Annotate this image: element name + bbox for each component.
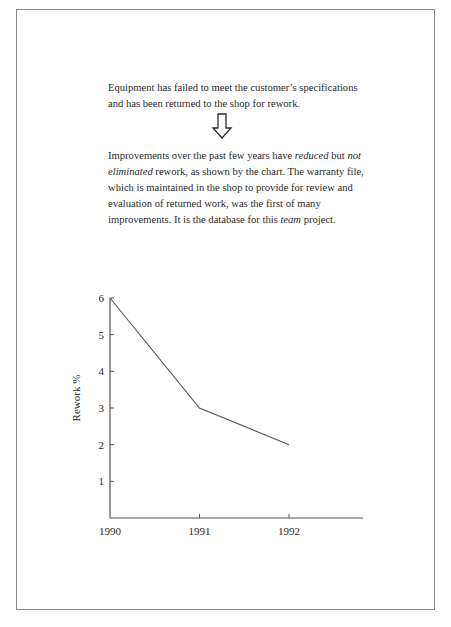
y-tick-label: 5	[99, 329, 105, 341]
y-axis-title: Rework %	[70, 375, 82, 422]
y-tick-label: 2	[99, 439, 105, 451]
y-tick-label: 1	[99, 475, 105, 487]
y-tick-label: 4	[99, 365, 105, 377]
x-tick-label: 1991	[189, 525, 211, 537]
series-line	[110, 298, 289, 445]
rework-chart: 123456199019911992Rework %	[0, 0, 451, 627]
y-tick-label: 3	[99, 402, 105, 414]
y-tick-label: 6	[99, 292, 105, 304]
x-tick-label: 1992	[278, 525, 300, 537]
x-tick-label: 1990	[99, 525, 122, 537]
